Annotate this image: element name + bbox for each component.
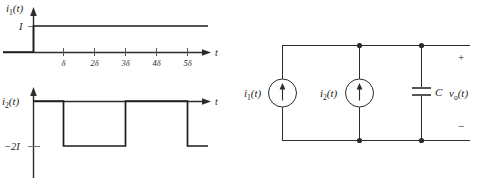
i1-tick-label-2: 2δ — [90, 58, 99, 68]
i2-t-axis-label: t — [215, 96, 218, 107]
output-voltage-label: vo(t) — [449, 87, 468, 102]
i1-signal-trace — [3, 26, 208, 52]
i2-y-axis-label: i2(t) — [2, 95, 20, 110]
figure-root: i1(t) I t δ 2δ 3δ 4δ 5δ i2(t) — [0, 0, 485, 186]
i1-t-axis-label: t — [215, 47, 218, 58]
i1-tick-label-5: 5δ — [183, 58, 192, 68]
waveform-i1-panel — [3, 7, 211, 56]
i1-y-axis-arrowhead — [30, 7, 37, 16]
polarity-plus-label: + — [458, 51, 464, 63]
waveform-i2-panel — [28, 87, 211, 178]
node-dot-bottom-middle — [357, 138, 362, 143]
capacitor-label: C — [435, 86, 443, 98]
i1-tick-label-1: δ — [62, 58, 67, 68]
node-dot-top-middle — [357, 43, 362, 48]
i1-t-axis-arrowhead — [202, 49, 211, 56]
source1-label: i1(t) — [244, 87, 262, 102]
source2-label: i2(t) — [320, 87, 338, 102]
node-dot-bottom-capacitor — [419, 138, 424, 143]
i1-tick-label-4: 4δ — [152, 58, 161, 68]
i2-level-label: −2I — [4, 141, 20, 152]
i1-level-label: I — [18, 21, 23, 32]
node-dot-top-capacitor — [419, 43, 424, 48]
figure-canvas: i1(t) I t δ 2δ 3δ 4δ 5δ i2(t) — [0, 0, 485, 186]
i1-tick-label-3: 3δ — [120, 58, 130, 68]
i2-signal-trace — [34, 101, 209, 146]
i2-y-axis-arrowhead — [30, 87, 37, 96]
polarity-minus-label: − — [458, 120, 464, 132]
i1-y-axis-label: i1(t) — [6, 2, 24, 17]
i2-t-axis-arrowhead — [202, 98, 211, 105]
